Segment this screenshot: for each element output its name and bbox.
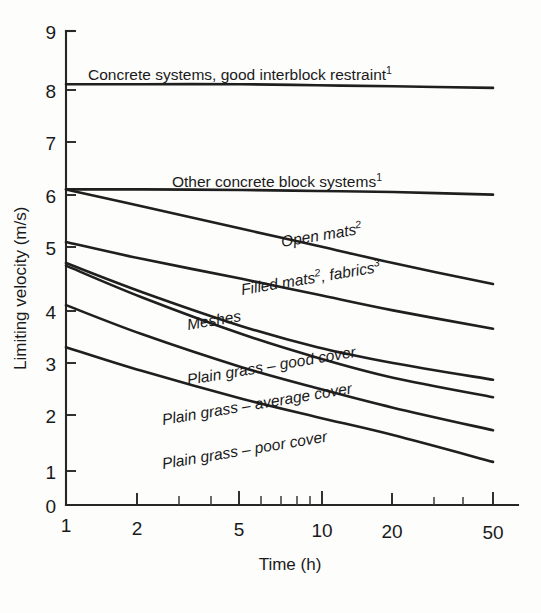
curve-labels: Concrete systems, good interblock restra… [88, 64, 392, 472]
y-axis-ticks [66, 31, 76, 471]
y-tick-label-8: 8 [45, 81, 56, 102]
curve-label-plain-grass-poor-cover-text: Plain grass – poor cover [161, 427, 329, 471]
chart-figure: 9 8 7 6 5 4 3 2 1 0 [0, 0, 541, 613]
y-axis-title: Limiting velocity (m/s) [11, 207, 30, 370]
curve-label-plain-grass-good-cover: Plain grass – good cover [186, 343, 358, 388]
x-tick-label-5: 5 [234, 519, 245, 540]
curve-label-concrete-systems-text: Concrete systems, good interblock restra… [88, 66, 387, 83]
curve-label-concrete-systems: Concrete systems, good interblock restra… [88, 64, 392, 83]
curve-label-other-concrete-block-systems-sup: 1 [376, 171, 382, 183]
curve-label-other-concrete-block-systems-text: Other concrete block systems [172, 173, 376, 190]
limiting-velocity-chart: 9 8 7 6 5 4 3 2 1 0 [0, 0, 541, 613]
y-tick-label-9: 9 [45, 22, 56, 43]
curve-other-concrete-block-systems [66, 189, 493, 194]
x-axis-ticks [137, 491, 493, 505]
curve-label-concrete-systems-sup: 1 [386, 64, 392, 76]
curve-label-other-concrete-block-systems: Other concrete block systems1 [172, 171, 382, 190]
curve-label-plain-grass-poor-cover: Plain grass – poor cover [161, 427, 329, 471]
curve-label-filled-mats-fabrics: Filled mats2, fabrics3 [239, 256, 381, 298]
y-tick-label-3: 3 [45, 354, 56, 375]
y-tick-label-1: 1 [45, 462, 56, 483]
x-tick-label-2: 2 [132, 518, 143, 539]
curve-label-fabrics-text: , fabrics [319, 259, 376, 285]
y-tick-label-0: 0 [45, 496, 56, 517]
curve-label-plain-grass-good-cover-text: Plain grass – good cover [186, 343, 358, 388]
y-tick-label-7: 7 [45, 133, 56, 154]
x-tick-label-10: 10 [311, 520, 332, 541]
x-tick-label-1: 1 [61, 515, 72, 536]
x-tick-label-20: 20 [381, 521, 402, 542]
curve-label-filled-mats-text: Filled mats [240, 269, 317, 298]
y-tick-label-4: 4 [45, 302, 56, 323]
x-axis-tick-labels: 1 2 5 10 20 50 [61, 515, 504, 543]
x-axis-title: Time (h) [259, 555, 322, 574]
curve-label-fabrics-sup: 3 [373, 256, 381, 269]
curve-label-open-mats: Open mats2 [279, 218, 363, 250]
curve-concrete-systems-good-interblock-restraint [66, 84, 493, 88]
y-tick-label-5: 5 [45, 238, 56, 259]
y-axis-tick-labels: 9 8 7 6 5 4 3 2 1 0 [45, 22, 56, 517]
x-tick-label-50: 50 [482, 522, 503, 543]
y-tick-label-6: 6 [45, 186, 56, 207]
y-tick-label-2: 2 [45, 406, 56, 427]
